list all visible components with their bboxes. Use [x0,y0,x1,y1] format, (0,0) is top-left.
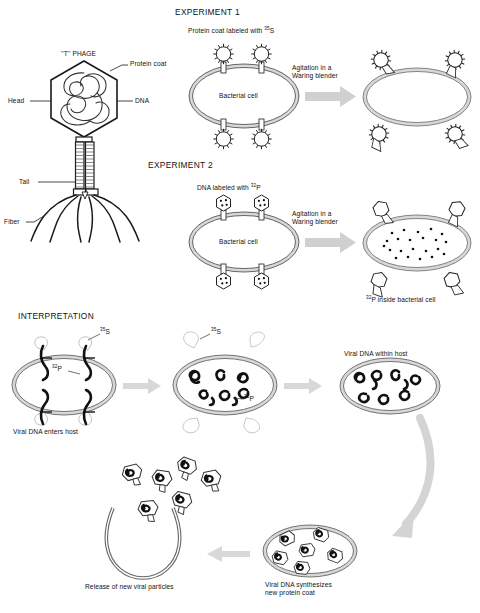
stage4-caption: Viral DNA synthesizes new protein coat [265,581,332,598]
exp2-arrow-label: Agitation in a Waring blender [292,210,338,227]
stage1-tag-s35: 35S [100,328,110,336]
stage1-p32-symbol: P [57,365,62,372]
tail-fibers [31,195,139,242]
exp2-process-arrow [305,232,356,253]
exp1-top-label: Protein coat labeled with 35S [188,27,274,35]
exp2-top-label-text: DNA labeled with [197,184,251,191]
stage4-caption-line2: new protein coat [265,589,332,597]
interp-stage4 [263,525,357,577]
exp1-top-label-text: Protein coat labeled with [188,27,264,34]
phage-title: ''T'' PHAGE [61,50,96,58]
exp2-result-label: 32P inside bacterial cell [366,296,436,304]
interp-arrow-1 [123,378,161,394]
section-heading-experiment1: EXPERIMENT 1 [175,8,240,16]
stage2-tag-p32: 32P [244,395,254,403]
exp1-arrow-label-line1: Agitation in a [292,64,338,72]
stage1-s35-symbol: S [105,328,110,335]
interp-curved-arrow [392,418,430,538]
figure-canvas: EXPERIMENT 1 EXPERIMENT 2 INTERPRETATION… [0,0,480,613]
stage4-caption-line1: Viral DNA synthesizes [265,581,332,589]
interp-stage3 [340,358,440,414]
stage1-tag-p32: 32P [52,365,62,373]
interp-arrow-3 [207,546,250,562]
exp1-process-arrow [305,86,356,107]
interp-arrow-2 [284,378,322,394]
phage-anatomy [26,61,139,242]
label-tail: Tail [19,178,29,186]
exp1-cell-after [363,46,471,152]
section-heading-interpretation: INTERPRETATION [18,312,94,320]
exp2-arrow-label-line2: Waring blender [292,218,338,226]
stage5-caption: Release of new viral particles [85,583,174,591]
exp2-cell-after [363,199,471,298]
label-fiber: Fiber [4,218,20,226]
stage3-caption: Viral DNA within host [344,350,408,358]
exp1-bacterial-cell-label: Bacterial cell [219,92,258,100]
interp-stage1 [12,334,116,425]
stage2-p32-symbol: P [249,395,254,402]
exp2-top-label: DNA labeled with 32P [197,184,261,192]
section-heading-experiment2: EXPERIMENT 2 [148,161,213,169]
exp2-arrow-label-line1: Agitation in a [292,210,338,218]
label-protein-coat: Protein coat [130,60,166,68]
stage1-caption: Viral DNA enters host [13,428,78,436]
interp-stage5 [106,456,223,578]
exp2-isotope-symbol: P [256,184,261,191]
exp1-isotope-symbol: S [270,27,275,34]
label-head: Head [8,97,24,105]
label-dna: DNA [135,97,149,105]
stage2-tag-s35: 35S [211,328,221,336]
exp2-result-text: P inside bacterial cell [371,296,435,303]
stage2-s35-symbol: S [216,328,221,335]
exp2-bacterial-cell-label: Bacterial cell [219,238,258,246]
exp1-arrow-label-line2: Waring blender [292,72,338,80]
exp1-arrow-label: Agitation in a Waring blender [292,64,338,81]
interp-stage2 [173,332,277,433]
